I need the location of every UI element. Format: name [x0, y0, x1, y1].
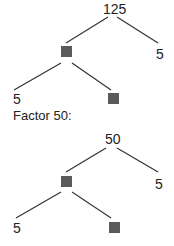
tree1-right-leaf: 5	[156, 47, 164, 61]
tree1-left-blank-box	[61, 46, 72, 57]
tree1-bottom-right-blank-box	[108, 93, 119, 104]
tree2-left-blank-box	[61, 176, 72, 187]
tree1-bottom-left-leaf: 5	[13, 92, 21, 106]
tree1-root: 125	[103, 2, 126, 16]
tree2-right-leaf: 5	[155, 177, 163, 191]
tree2-bottom-left-leaf: 5	[13, 221, 21, 235]
tree2-bottom-right-blank-box	[109, 222, 120, 233]
tree2-root: 50	[105, 132, 121, 146]
factor-tree-lines	[0, 0, 174, 246]
factor-50-caption: Factor 50:	[13, 109, 72, 123]
